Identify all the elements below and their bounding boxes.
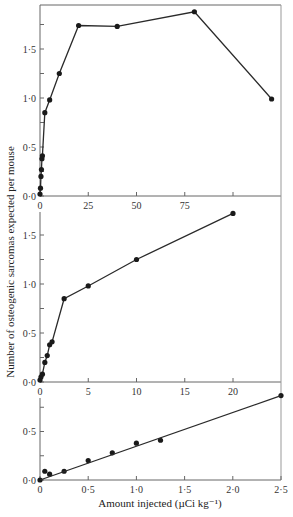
data-point	[269, 96, 274, 101]
data-point	[42, 110, 47, 115]
panel-middle: 0·00·51·01·505101520	[23, 196, 281, 397]
data-point	[40, 153, 45, 158]
x-tick-label: 10	[132, 386, 142, 397]
panel-top: 0·00·51·01·50255075	[23, 5, 281, 211]
data-point	[192, 9, 197, 14]
data-point	[45, 353, 50, 358]
x-axis-title: Amount injected (µCi kg⁻¹)	[98, 497, 222, 510]
y-tick-label: 0·5	[23, 328, 36, 339]
x-tick-label: 0	[38, 484, 43, 495]
series-line	[40, 12, 272, 194]
chart-canvas: 0·00·51·01·502550750·00·51·01·5051015200…	[0, 0, 293, 517]
data-point	[40, 372, 45, 377]
y-tick-label: 0·5	[23, 426, 36, 437]
data-point	[42, 360, 47, 365]
data-point	[230, 211, 235, 216]
x-tick-label: 50	[132, 200, 142, 211]
panel-bottom: 0·00·500·51·01·52·02·5	[23, 382, 288, 495]
data-point	[42, 469, 47, 474]
y-tick-label: 0·0	[23, 191, 36, 202]
y-tick-label: 0·0	[23, 475, 36, 486]
data-point	[38, 186, 43, 191]
data-point	[76, 23, 81, 28]
data-point	[37, 191, 42, 196]
x-tick-label: 25	[83, 200, 93, 211]
data-point	[49, 339, 54, 344]
y-tick-label: 1·5	[23, 44, 36, 55]
data-point	[57, 71, 62, 76]
data-point	[38, 174, 43, 179]
data-point	[62, 296, 67, 301]
x-tick-label: 2·0	[226, 484, 239, 495]
data-point	[115, 24, 120, 29]
x-tick-label: 15	[180, 386, 190, 397]
data-point	[86, 283, 91, 288]
x-tick-label: 0·5	[82, 484, 95, 495]
chart-figure: 0·00·51·01·502550750·00·51·01·5051015200…	[0, 0, 293, 517]
fit-line	[40, 396, 281, 480]
x-tick-label: 0	[38, 386, 43, 397]
x-tick-label: 1·0	[130, 484, 143, 495]
data-point	[47, 97, 52, 102]
y-axis-title: Number of osteogenic sarcomas expected p…	[4, 146, 16, 378]
x-tick-label: 5	[86, 386, 91, 397]
x-tick-label: 0	[38, 200, 43, 211]
y-tick-label: 1·0	[23, 279, 36, 290]
x-tick-label: 20	[228, 386, 238, 397]
x-tick-label: 75	[180, 200, 190, 211]
data-point	[134, 257, 139, 262]
y-tick-label: 1·5	[23, 230, 36, 241]
y-tick-label: 0·5	[23, 142, 36, 153]
y-tick-label: 1·0	[23, 93, 36, 104]
data-point	[39, 167, 44, 172]
y-tick-label: 0·0	[23, 377, 36, 388]
x-tick-label: 2·5	[274, 484, 287, 495]
x-tick-label: 1·5	[178, 484, 191, 495]
series-line	[40, 213, 233, 380]
